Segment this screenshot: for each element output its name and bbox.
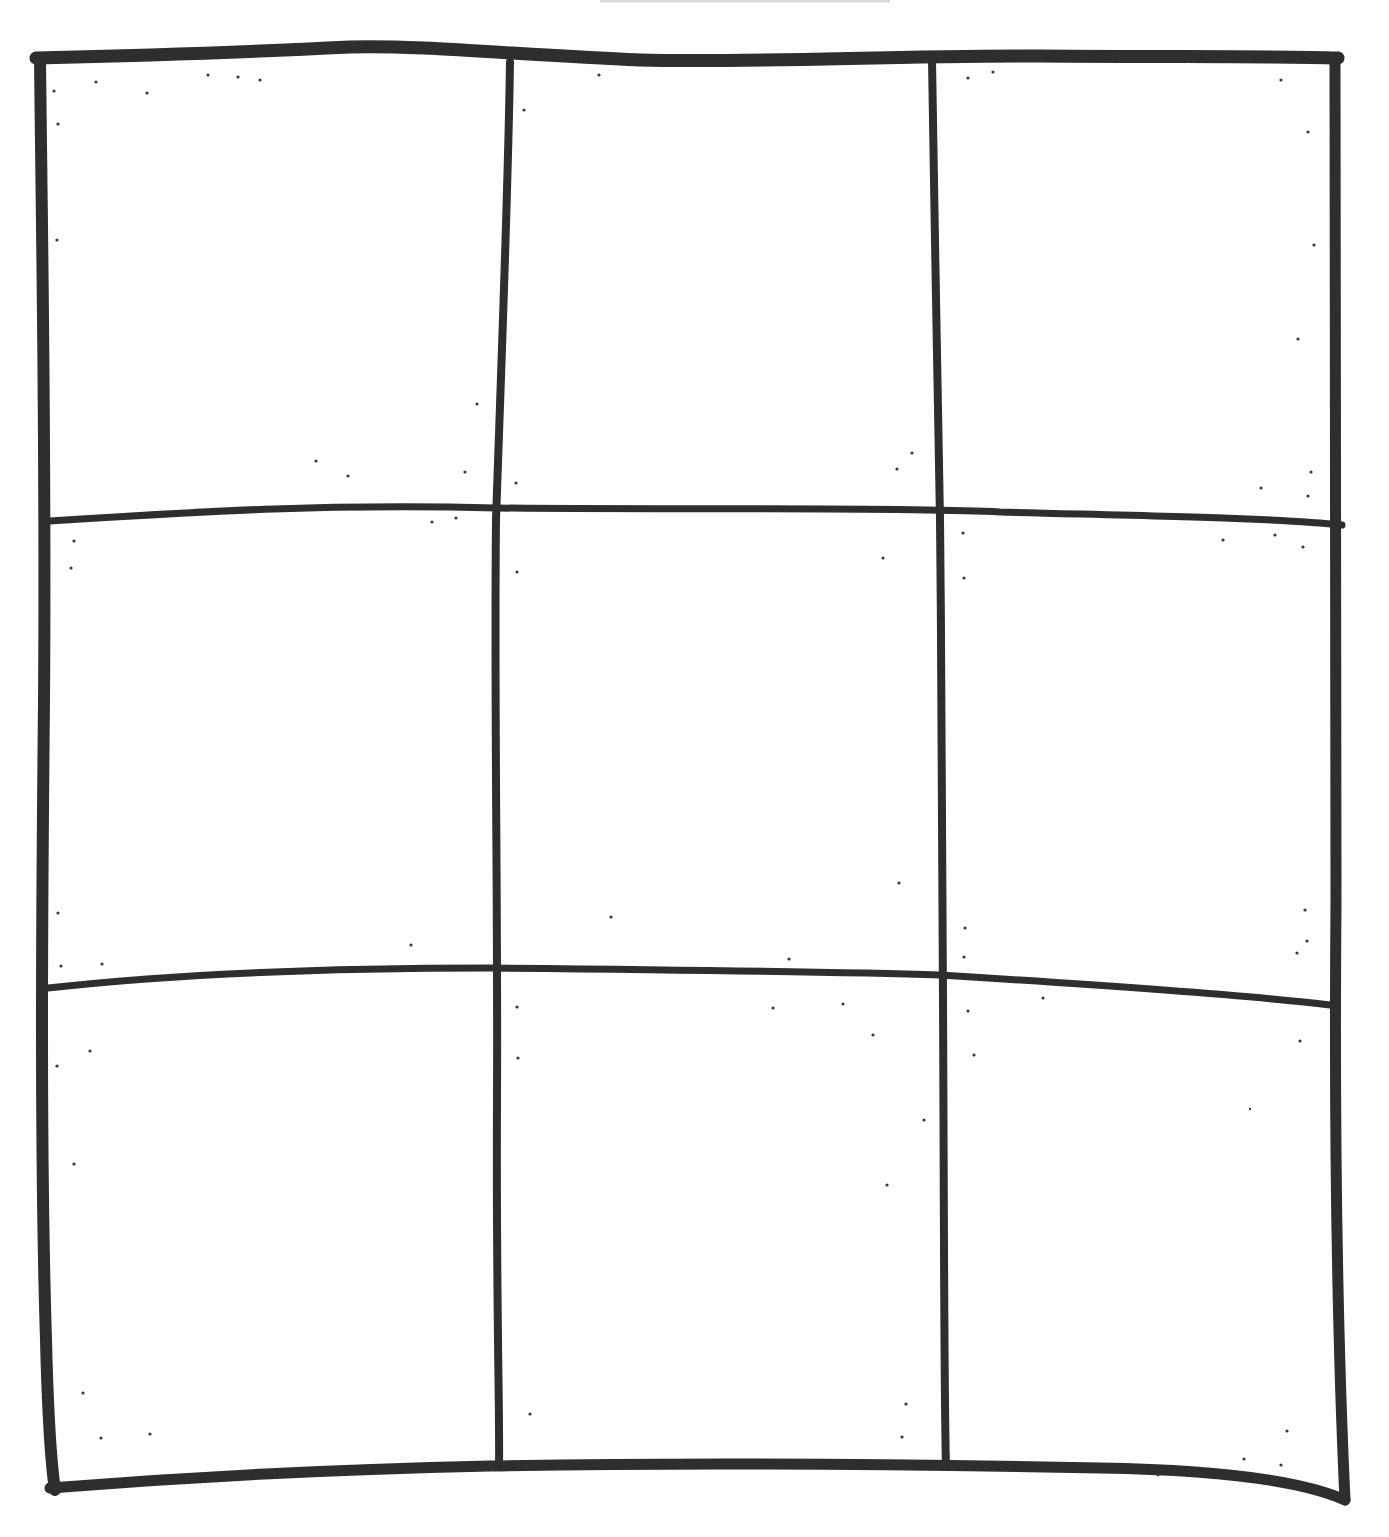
grid-line-vertical-2 (932, 60, 946, 1466)
grid-border-left (40, 58, 55, 1490)
grid-line-vertical-1 (495, 62, 510, 1466)
grid-border-top (36, 47, 1338, 61)
grid-line-horizontal-1 (50, 507, 1342, 525)
paper-specks (52, 70, 1315, 1476)
grid-border-right (1335, 58, 1345, 1500)
grid-border-bottom (50, 1464, 1345, 1500)
grid-line-horizontal-2 (48, 968, 1330, 1005)
hand-drawn-grid (0, 0, 1389, 1537)
